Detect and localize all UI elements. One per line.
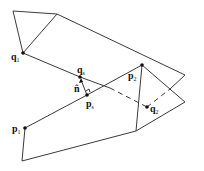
- polygon-q: [13, 11, 185, 107]
- label-q1: q1: [11, 51, 20, 63]
- point-ps: [85, 93, 89, 97]
- polygon-p: [22, 65, 185, 161]
- polygon-p-diagonal: [136, 65, 142, 131]
- right-angle-marker-icon: [86, 89, 90, 92]
- polygon-q-hidden-edge-1: [110, 88, 147, 107]
- point-p2: [140, 63, 144, 67]
- diagram-canvas: q1 qs n̂ ps p1 p2 q2: [0, 0, 204, 171]
- label-ps: ps: [86, 98, 95, 110]
- point-q1: [21, 51, 25, 55]
- polygon-p-outline: [22, 65, 185, 161]
- label-n: n̂: [74, 83, 80, 94]
- label-p1: p1: [12, 123, 21, 135]
- polygon-q-diagonal: [23, 14, 57, 53]
- polygon-q-outline: [13, 11, 185, 89]
- label-qs: qs: [77, 64, 86, 76]
- label-q2: q2: [150, 103, 159, 115]
- label-p2: p2: [128, 70, 137, 82]
- point-p1: [23, 126, 27, 130]
- point-q2: [145, 105, 149, 109]
- point-qs: [78, 75, 82, 79]
